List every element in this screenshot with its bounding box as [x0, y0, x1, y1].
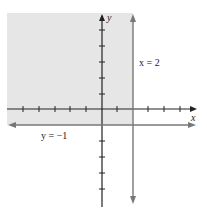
graph: y x x = 2 y = −1: [0, 0, 207, 217]
y-equals-neg1-label: y = −1: [41, 130, 67, 141]
x-equals-2-label: x = 2: [139, 57, 160, 68]
y-axis-label: y: [106, 12, 112, 23]
x-axis-label: x: [190, 112, 196, 123]
